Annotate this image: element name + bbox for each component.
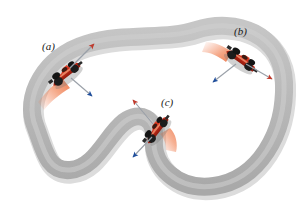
physics-figure-racetrack: (a) (b) (c) — [0, 0, 304, 210]
figure-label-a: (a) — [42, 41, 55, 52]
figure-label-b: (b) — [234, 26, 247, 37]
acceleration-arrow-a — [71, 78, 92, 96]
acceleration-arrow-b — [213, 64, 236, 82]
track-group — [32, 26, 286, 190]
racetrack-illustration — [0, 0, 304, 210]
figure-label-c: (c) — [161, 97, 173, 108]
